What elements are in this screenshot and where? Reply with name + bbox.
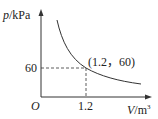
- point-annotation: (1.2，60): [88, 55, 135, 69]
- x-axis-label: V/m3: [127, 103, 151, 117]
- y-axis-arrow-icon: [39, 9, 44, 16]
- y-axis-label: p/kPa: [2, 8, 31, 22]
- y-tick-60: 60: [25, 61, 37, 75]
- pv-chart: p/kPa 60 O 1.2 (1.2，60) V/m3: [0, 0, 158, 119]
- x-tick-1-2: 1.2: [78, 99, 93, 113]
- x-axis-arrow-icon: [145, 95, 152, 100]
- pv-curve: [57, 20, 141, 84]
- origin-label: O: [31, 99, 40, 113]
